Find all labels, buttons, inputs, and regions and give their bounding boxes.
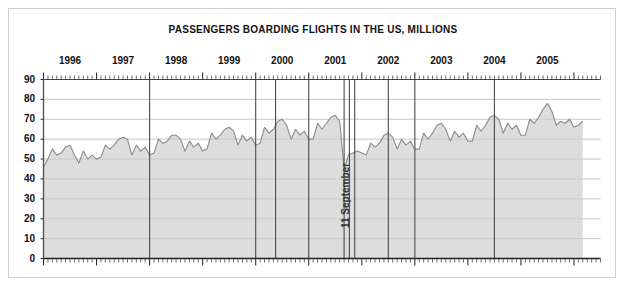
y-axis-tick-label: 90 bbox=[5, 75, 35, 85]
x-axis-year-label: 2000 bbox=[262, 55, 302, 66]
x-axis-year-label: 1996 bbox=[50, 55, 90, 66]
x-axis-year-label: 2001 bbox=[315, 55, 355, 66]
y-axis-tick-label: 30 bbox=[5, 194, 35, 204]
september-11-annotation: 11 September bbox=[340, 163, 351, 228]
y-axis-tick-label: 60 bbox=[5, 134, 35, 144]
plot-area bbox=[0, 0, 626, 288]
x-axis-year-label: 2004 bbox=[474, 55, 514, 66]
x-axis-year-label: 1997 bbox=[103, 55, 143, 66]
x-axis-year-label: 2002 bbox=[368, 55, 408, 66]
y-axis-tick-label: 50 bbox=[5, 154, 35, 164]
x-axis-year-label: 1998 bbox=[156, 55, 196, 66]
y-axis-tick-label: 40 bbox=[5, 174, 35, 184]
y-axis-tick-label: 80 bbox=[5, 94, 35, 104]
chart-figure: PASSENGERS BOARDING FLIGHTS IN THE US, M… bbox=[0, 0, 626, 288]
y-axis-tick-label: 70 bbox=[5, 114, 35, 124]
y-axis-tick-label: 20 bbox=[5, 214, 35, 224]
x-axis-year-label: 2005 bbox=[527, 55, 567, 66]
x-axis-year-label: 2003 bbox=[421, 55, 461, 66]
x-axis-year-label: 1999 bbox=[209, 55, 249, 66]
y-axis-tick-label: 10 bbox=[5, 234, 35, 244]
y-axis-tick-label: 0 bbox=[5, 254, 35, 264]
